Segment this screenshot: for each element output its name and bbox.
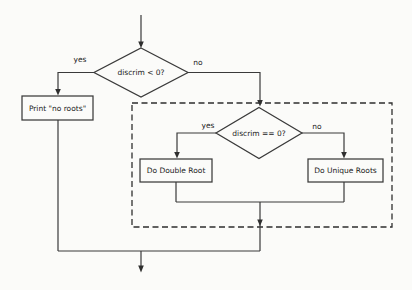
decision2-yes-arrowhead-icon [174, 152, 180, 159]
region-exit-arrowhead-icon [257, 220, 263, 227]
do-double-root-label: Do Double Root [147, 166, 206, 175]
flowchart-canvas: discrim < 0? yes Print "no roots" no dis… [0, 0, 412, 290]
decision2-label: discrim == 0? [232, 129, 285, 138]
entry-arrowhead-icon [138, 42, 144, 49]
decision1-no-label: no [193, 58, 203, 67]
print-no-roots-label: Print "no roots" [29, 104, 86, 113]
final-exit-arrowhead-icon [138, 266, 144, 273]
decision1-yes-edge [58, 73, 94, 90]
decision2-no-edge [302, 133, 344, 153]
do-unique-roots-label: Do Unique Roots [314, 166, 377, 175]
decision2-yes-label: yes [202, 121, 215, 130]
decision1-yes-label: yes [74, 55, 87, 64]
decision2-no-arrowhead-icon [341, 152, 347, 159]
decision1-yes-arrowhead-icon [55, 89, 61, 96]
decision2-no-label: no [312, 122, 322, 131]
flowchart-diagram: discrim < 0? yes Print "no roots" no dis… [0, 0, 412, 290]
region-merge-edge [176, 182, 344, 251]
decision1-label: discrim < 0? [117, 68, 164, 77]
decision1-no-edge [188, 73, 260, 101]
decision2-yes-edge [177, 133, 216, 153]
